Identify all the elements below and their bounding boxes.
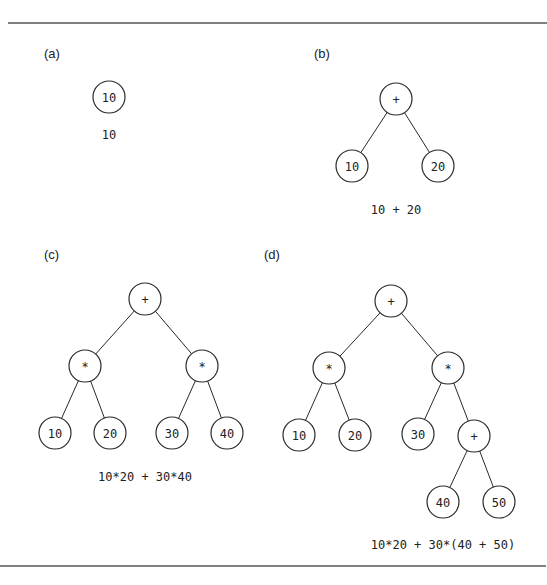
tree-node: +	[380, 83, 412, 115]
tree-node: 40	[211, 417, 243, 449]
tree-edge	[425, 383, 442, 420]
tree-node: 10	[39, 417, 71, 449]
tree-edge	[96, 311, 135, 354]
node-label: 20	[348, 429, 362, 443]
node-label: 20	[103, 427, 117, 441]
node-label: *	[198, 360, 205, 374]
tree-node: 50	[483, 486, 515, 518]
node-label: *	[444, 362, 451, 376]
tree-node: *	[69, 350, 101, 382]
node-label: 10	[102, 91, 116, 105]
tree-node: 40	[427, 486, 459, 518]
tree-node: 20	[422, 150, 454, 182]
node-label: 10	[292, 429, 306, 443]
node-label: *	[81, 360, 88, 374]
tree-node: 10	[283, 419, 315, 451]
panel-label: (c)	[44, 247, 59, 262]
expression-tree-figure: (a)1010(b)+102010 + 20(c)+**1020304010*2…	[0, 0, 547, 585]
tree-edge	[306, 383, 323, 421]
node-label: 30	[411, 428, 425, 442]
tree-edge	[91, 381, 105, 418]
panel-b: (b)+102010 + 20	[314, 46, 454, 217]
node-label: +	[470, 430, 477, 444]
expression-caption: 10*20 + 30*(40 + 50)	[371, 538, 516, 552]
tree-node: *	[313, 352, 345, 384]
tree-edge	[155, 311, 191, 354]
tree-edge	[335, 383, 349, 420]
tree-edge	[404, 113, 429, 153]
tree-edge	[480, 451, 494, 487]
node-label: 10	[345, 160, 359, 174]
tree-node: *	[186, 350, 218, 382]
tree-node: 30	[156, 417, 188, 449]
tree-node: +	[375, 285, 407, 317]
tree-node: 30	[402, 418, 434, 450]
node-label: +	[141, 293, 148, 307]
node-label: +	[392, 93, 399, 107]
panel-a: (a)1010	[44, 46, 125, 142]
panel-label: (d)	[264, 247, 280, 262]
tree-node: 20	[339, 419, 371, 451]
tree-edge	[401, 313, 437, 356]
tree-edge	[208, 381, 222, 418]
tree-edge	[62, 381, 79, 419]
tree-edge	[361, 112, 387, 152]
node-label: +	[387, 295, 394, 309]
node-label: 50	[492, 496, 506, 510]
tree-node: 10	[336, 150, 368, 182]
node-label: 20	[431, 160, 445, 174]
expression-caption: 10*20 + 30*40	[98, 470, 192, 484]
node-label: 40	[220, 427, 234, 441]
tree-edge	[454, 383, 469, 421]
tree-node: 20	[94, 417, 126, 449]
node-label: 30	[165, 427, 179, 441]
panel-label: (b)	[314, 46, 330, 61]
panel-d: (d)+**102030+405010*20 + 30*(40 + 50)	[264, 247, 515, 552]
panel-label: (a)	[44, 46, 60, 61]
tree-node: +	[129, 283, 161, 315]
node-label: 40	[436, 496, 450, 510]
tree-edge	[340, 313, 380, 357]
tree-edge	[450, 450, 467, 487]
tree-node: *	[432, 352, 464, 384]
expression-caption: 10	[102, 128, 116, 142]
node-label: *	[325, 362, 332, 376]
panel-c: (c)+**1020304010*20 + 30*40	[39, 247, 243, 484]
tree-node: 10	[93, 81, 125, 113]
node-label: 10	[48, 427, 62, 441]
tree-node: +	[458, 420, 490, 452]
tree-edge	[179, 381, 196, 419]
expression-caption: 10 + 20	[371, 203, 422, 217]
